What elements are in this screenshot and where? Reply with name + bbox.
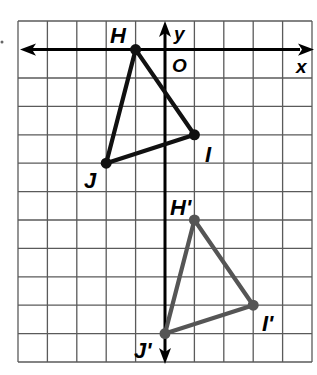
- label-J: J: [84, 168, 97, 193]
- stray-dot: [1, 41, 4, 44]
- x-axis-label: x: [295, 56, 308, 77]
- point-I: [189, 129, 200, 140]
- y-axis-label: y: [173, 23, 186, 44]
- point-J-prime: [160, 328, 171, 339]
- label-H: H: [110, 23, 127, 48]
- point-J: [101, 158, 112, 169]
- point-I-prime: [248, 300, 259, 311]
- origin-label: O: [172, 55, 187, 76]
- label-I: I: [205, 142, 212, 167]
- label-H-prime: H': [170, 195, 192, 220]
- point-H: [130, 44, 141, 55]
- x-axis: [20, 44, 314, 56]
- label-I-prime: I': [262, 311, 274, 336]
- label-J-prime: J': [134, 338, 152, 363]
- coordinate-grid: H I J H' I' J' y x O: [0, 0, 317, 375]
